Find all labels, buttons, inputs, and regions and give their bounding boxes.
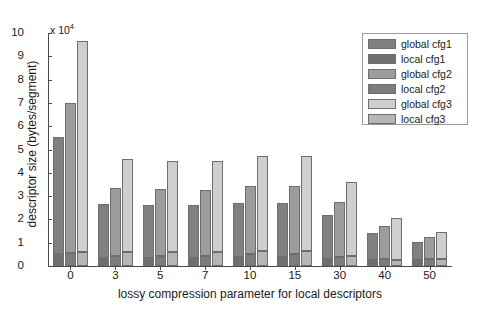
bar-segment-global [143, 205, 154, 257]
legend-item[interactable]: local cfg3 [368, 112, 467, 126]
bar-segment-local [143, 258, 154, 266]
x-tick-label: 0 [50, 270, 90, 282]
legend-item[interactable]: local cfg1 [368, 52, 467, 66]
y-tick-mark [48, 173, 52, 174]
bar-segment-local [155, 256, 166, 266]
bar-stack [200, 190, 211, 266]
legend-label: local cfg1 [401, 54, 445, 65]
bar-segment-global [53, 137, 64, 255]
bar-segment-global [167, 161, 178, 252]
bar-stack [122, 159, 133, 266]
bar-stack [110, 188, 121, 266]
bar-stack [257, 156, 268, 266]
bar-segment-local [424, 259, 435, 266]
bar-segment-local [334, 257, 345, 266]
y-axis-title: descriptor size (bytes/segment) [26, 34, 38, 254]
x-tick-label: 7 [185, 270, 225, 282]
y-multiplier-exponent: 4 [70, 22, 74, 31]
x-tick-label: 15 [275, 270, 315, 282]
bar-segment-local [412, 260, 423, 266]
bar-stack [322, 215, 333, 266]
bar-segment-local [212, 252, 223, 266]
x-tick-label: 10 [230, 270, 270, 282]
bar-segment-global [391, 218, 402, 260]
bar-segment-local [289, 254, 300, 266]
bar-segment-global [155, 189, 166, 255]
bar-stack [155, 189, 166, 266]
legend-item[interactable]: global cfg1 [368, 37, 467, 51]
bar-stack [233, 203, 244, 266]
y-tick-label: 7 [0, 97, 24, 109]
bar-segment-global [334, 202, 345, 257]
bar-stack [391, 218, 402, 266]
legend-item[interactable]: local cfg2 [368, 82, 467, 96]
bar-segment-global [424, 237, 435, 259]
y-tick-label: 10 [0, 27, 24, 39]
bar-segment-global [98, 204, 109, 258]
bar-segment-global [346, 182, 357, 255]
legend-label: global cfg1 [401, 39, 452, 50]
bar-segment-local [122, 252, 133, 266]
x-tick-mark [160, 266, 161, 270]
bar-segment-global [289, 186, 300, 255]
y-tick-label: 3 [0, 190, 24, 202]
legend-swatch-icon [368, 39, 396, 49]
y-tick-mark [48, 150, 52, 151]
bar-stack [245, 186, 256, 266]
bar-segment-local [346, 256, 357, 266]
legend-swatch-icon [368, 114, 396, 124]
y-axis-multiplier: x 104 [50, 22, 74, 35]
bar-stack [436, 232, 447, 266]
bar-segment-global [212, 161, 223, 252]
bar-stack [188, 205, 199, 266]
y-tick-label: 0 [0, 260, 24, 272]
x-tick-mark [250, 266, 251, 270]
bar-segment-global [301, 156, 312, 250]
bar-stack [53, 137, 64, 266]
legend-item[interactable]: global cfg3 [368, 97, 467, 111]
bar-segment-global [233, 203, 244, 257]
bar-segment-global [367, 233, 378, 260]
bar-segment-local [77, 252, 88, 266]
x-tick-mark [205, 266, 206, 270]
bar-segment-local [322, 259, 333, 266]
x-tick-label: 5 [140, 270, 180, 282]
y-tick-mark [48, 243, 52, 244]
legend-item[interactable]: global cfg2 [368, 67, 467, 81]
bar-stack [424, 237, 435, 266]
bar-segment-global [436, 232, 447, 259]
bar-segment-global [322, 215, 333, 259]
x-tick-mark [340, 266, 341, 270]
bar-stack [98, 204, 109, 266]
y-multiplier-prefix: x 10 [50, 24, 70, 36]
bar-segment-local [391, 260, 402, 266]
bar-segment-local [277, 257, 288, 266]
x-tick-mark [70, 266, 71, 270]
y-tick-mark [48, 103, 52, 104]
bar-stack [334, 202, 345, 266]
bar-segment-global [200, 190, 211, 255]
bar-segment-local [257, 251, 268, 266]
y-tick-label: 1 [0, 237, 24, 249]
y-tick-mark [48, 56, 52, 57]
bar-stack [77, 41, 88, 266]
legend-label: global cfg2 [401, 69, 452, 80]
legend-swatch-icon [368, 54, 396, 64]
bar-segment-global [379, 226, 390, 259]
bar-segment-global [110, 188, 121, 256]
y-tick-label: 8 [0, 74, 24, 86]
y-tick-mark [48, 266, 52, 267]
y-tick-label: 6 [0, 120, 24, 132]
bar-segment-global [77, 41, 88, 252]
legend-swatch-icon [368, 99, 396, 109]
x-axis-title: lossy compression parameter for local de… [48, 288, 452, 300]
bar-segment-global [122, 159, 133, 252]
x-tick-label: 30 [320, 270, 360, 282]
y-tick-label: 2 [0, 213, 24, 225]
x-tick-mark [385, 266, 386, 270]
bar-stack [143, 205, 154, 266]
bar-stack [412, 242, 423, 266]
y-tick-label: 5 [0, 144, 24, 156]
x-tick-mark [115, 266, 116, 270]
legend-label: local cfg2 [401, 84, 445, 95]
